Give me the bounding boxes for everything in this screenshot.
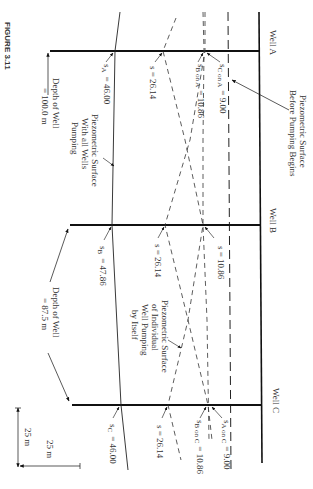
well-b-drawdowns: s = 10.86 s = 26.14 sB= 47.86 — [96, 227, 226, 286]
svg-text:Well Pumping: Well Pumping — [140, 304, 150, 356]
well-drawdown-diagram: FIGURE 3.11 Well A Well B Well C Piezome… — [0, 0, 313, 489]
svg-text:sC on A= 9.00: sC on A= 9.00 — [216, 64, 228, 114]
svg-text:sA on C= 9.00: sA on C= 9.00 — [220, 420, 232, 470]
well-c-label: Well C — [271, 388, 281, 413]
well-b-label: Well B — [268, 208, 278, 233]
svg-text:sA= 46.00: sA= 46.00 — [100, 64, 112, 105]
well-b-depth-annotation: Depth of Well = 87.5 m — [40, 229, 68, 338]
svg-text:s = 26.14: s = 26.14 — [148, 66, 158, 100]
well-a-depth-annotation: Depth of Well = 100.0 m — [40, 53, 61, 129]
svg-text:sB on C= 10.86: sB on C= 10.86 — [193, 420, 205, 474]
ground-surface-line — [259, 12, 262, 463]
individual-surface-annotation: Piezometric Surface of Individual Well P… — [130, 300, 181, 373]
scale-bars: 25 m 25 m — [15, 408, 80, 469]
svg-text:by Itself: by Itself — [130, 310, 140, 340]
svg-text:s = 26.14: s = 26.14 — [153, 244, 163, 278]
figure-label: FIGURE 3.11 — [3, 22, 12, 70]
svg-text:sB on A= 10.86: sB on A= 10.86 — [194, 64, 206, 118]
svg-text:= 87.5 m: = 87.5 m — [40, 298, 50, 330]
svg-text:Piezometric Surface: Piezometric Surface — [160, 300, 170, 373]
svg-text:s = 26.14: s = 26.14 — [155, 425, 165, 459]
svg-text:Piezometric Surface: Piezometric Surface — [90, 114, 100, 187]
svg-text:s = 10.86: s = 10.86 — [216, 246, 226, 280]
all-wells-surface — [112, 12, 128, 470]
svg-text:sB= 47.86: sB= 47.86 — [96, 246, 108, 286]
svg-text:25 m: 25 m — [23, 428, 33, 446]
svg-text:of Individual: of Individual — [150, 304, 160, 351]
svg-text:Depth of Well: Depth of Well — [51, 78, 61, 129]
svg-text:Pumping: Pumping — [70, 122, 80, 155]
well-a-label: Well A — [268, 30, 278, 56]
svg-text:With all Wells: With all Wells — [80, 118, 90, 170]
svg-text:sC= 46.00: sC= 46.00 — [106, 424, 118, 464]
svg-text:Before Pumping Begins: Before Pumping Begins — [288, 90, 298, 177]
well-c-depth-arrow — [48, 353, 69, 401]
svg-text:25 m: 25 m — [45, 440, 55, 458]
well-a-drawdowns: sC on A= 9.00 sB on A= 10.86 s = 26.14 s… — [100, 53, 228, 118]
before-pumping-annotation: Piezometric Surface Before Pumping Begin… — [232, 80, 308, 177]
all-wells-annotation: Piezometric Surface With all Wells Pumpi… — [70, 114, 114, 187]
before-pumping-surface — [228, 12, 231, 470]
svg-text:= 100.0 m: = 100.0 m — [40, 88, 50, 125]
svg-text:Piezometric Surface: Piezometric Surface — [298, 95, 308, 168]
svg-text:Depth of Well: Depth of Well — [51, 287, 61, 338]
